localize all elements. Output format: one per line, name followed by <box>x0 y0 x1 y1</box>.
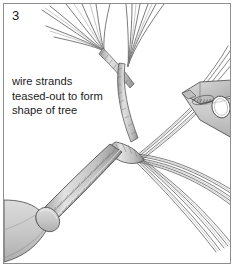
wire-tree-illustration <box>4 4 231 264</box>
right-branch-to-pliers <box>136 108 196 162</box>
lower-right-branch-upper <box>135 154 231 206</box>
upper-left-branch-highlights <box>45 4 104 51</box>
caption-line-2: teased-out to form <box>12 89 137 104</box>
right-branch-highlights <box>137 109 196 161</box>
base-clamp <box>4 200 60 262</box>
caption-line-3: shape of tree <box>12 103 137 118</box>
upper-center-branch <box>126 4 164 66</box>
caption-line-1: wire strands <box>12 74 137 89</box>
figure-frame: 3 wire strands teased-out to form shape … <box>3 3 231 264</box>
step-number: 3 <box>12 9 19 23</box>
caption-block: wire strands teased-out to form shape of… <box>12 74 137 118</box>
figure-panel: 3 wire strands teased-out to form shape … <box>0 0 237 273</box>
